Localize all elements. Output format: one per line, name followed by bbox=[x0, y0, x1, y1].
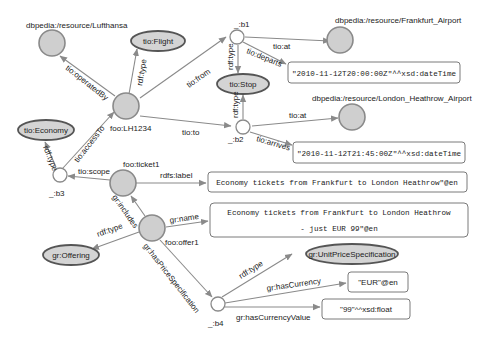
node-offer1-label: foo:offer1 bbox=[165, 238, 199, 247]
node-flight-class-label: tio:Flight bbox=[143, 37, 174, 46]
node-lh1234-label: foo:LH1234 bbox=[110, 124, 152, 133]
edge-label-b2-type: rdf:type bbox=[231, 91, 240, 118]
edge-label-rdfs-label: rdfs:label bbox=[160, 171, 193, 180]
edge-label-from: tio:from bbox=[185, 67, 212, 90]
edge-label-unitprice-type: rdf:type bbox=[237, 259, 265, 281]
rdf-graph: dbpedia:/resource/Lufthansa tio:Flight f… bbox=[0, 0, 486, 346]
node-ticket1-label: foo:ticket1 bbox=[123, 160, 160, 169]
node-offer1 bbox=[139, 215, 165, 241]
node-offering-class-label: gr:Offering bbox=[52, 251, 90, 260]
literal-name-line2: - just EUR 99"@en bbox=[300, 225, 377, 233]
node-lh1234 bbox=[113, 93, 139, 119]
literal-currency-value: "99"^^xsd:float bbox=[340, 305, 393, 314]
edge-label-economy-type: rdf:type bbox=[41, 144, 60, 173]
node-frankfurt-label: dbpedia:/resource/Frankfurt_Airport bbox=[335, 16, 462, 25]
edge-label-scope: tio:scope bbox=[78, 167, 111, 176]
edge-label-hascurrencyvalue: gr:hasCurrencyValue bbox=[236, 313, 311, 322]
literal-name-line1: Economy tickets from Frankfurt to London… bbox=[227, 209, 451, 217]
edge-to bbox=[140, 116, 231, 126]
node-unitprice-class-label: gr:UnitPriceSpecification bbox=[308, 250, 395, 259]
node-b4-label: _:b4 bbox=[207, 319, 224, 328]
node-stop-class-label: tio:Stop bbox=[229, 80, 257, 89]
literal-currency: "EUR"@en bbox=[358, 278, 398, 287]
node-b2 bbox=[236, 120, 250, 134]
literal-departs: "2010-11-12T20:00:00Z"^^xsd:dateTime bbox=[292, 70, 456, 78]
node-lufthansa bbox=[39, 30, 65, 56]
edge-label-operatedby: tio:operatedBy bbox=[64, 63, 110, 102]
edge-b1-at bbox=[245, 37, 330, 41]
node-b2-label: _:b2 bbox=[227, 135, 244, 144]
edge-operatedby bbox=[60, 56, 115, 96]
node-b1 bbox=[230, 30, 244, 44]
node-heathrow-label: dbpedia:/resource/London_Heathrow_Airpor… bbox=[312, 94, 472, 103]
edge-label-to: tio:to bbox=[182, 128, 200, 137]
edge-includes bbox=[131, 196, 145, 216]
edge-scope bbox=[68, 176, 110, 180]
edge-label-accessto: tio:accessTo bbox=[72, 124, 107, 165]
edge-label-flight-type: rdf:type bbox=[135, 58, 149, 86]
node-b1-label: _:b1 bbox=[233, 20, 250, 29]
edge-label-b2-at: tio:at bbox=[289, 111, 307, 120]
literal-label: Economy tickets from Frankfurt to London… bbox=[216, 179, 458, 187]
edge-label-b1-type: rdf:type bbox=[226, 43, 235, 70]
node-b3-label: _:b3 bbox=[48, 189, 65, 198]
node-economy-class-label: tio:Economy bbox=[24, 126, 68, 135]
node-lufthansa-label: dbpedia:/resource/Lufthansa bbox=[26, 21, 128, 30]
literal-arrives: "2010-11-12T21:45:00Z"^^xsd:dateTime bbox=[297, 150, 461, 158]
edge-label-b1-at: tio:at bbox=[273, 42, 291, 51]
edge-label-offering-type: rdf:type bbox=[96, 221, 125, 239]
edge-flight-type bbox=[129, 49, 137, 94]
edge-label-hascurrency: gr:hasCurrency bbox=[266, 276, 321, 293]
node-frankfurt bbox=[327, 27, 353, 53]
edge-label-arrives: tio:arrives bbox=[255, 134, 291, 152]
node-b4 bbox=[211, 297, 225, 311]
node-ticket1 bbox=[110, 170, 136, 196]
node-heathrow bbox=[339, 104, 365, 130]
